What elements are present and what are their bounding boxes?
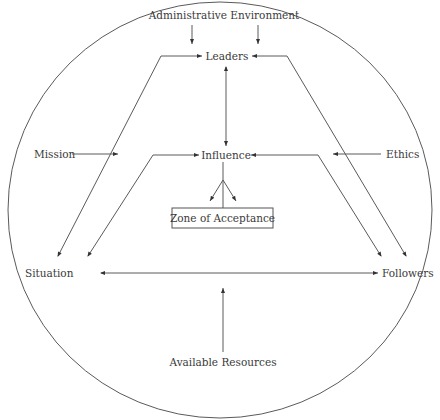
- arrow-influence-zone-right: [223, 180, 236, 201]
- label-available-resources: Available Resources: [168, 356, 276, 368]
- leadership-diagram: Administrative Environment Leaders Missi…: [0, 0, 440, 420]
- label-ethics: Ethics: [386, 148, 419, 160]
- path-followers-to-influence: [251, 155, 381, 256]
- path-followers-to-leaders: [252, 56, 406, 256]
- label-situation: Situation: [25, 267, 74, 279]
- label-influence: Influence: [201, 149, 251, 161]
- path-situation-to-influence: [88, 155, 199, 256]
- label-followers: Followers: [382, 267, 434, 279]
- arrow-influence-zone-left: [210, 180, 223, 201]
- label-zone-of-acceptance: Zone of Acceptance: [170, 212, 275, 224]
- label-leaders: Leaders: [206, 50, 249, 62]
- label-administrative-environment: Administrative Environment: [148, 9, 300, 21]
- label-mission: Mission: [34, 148, 76, 160]
